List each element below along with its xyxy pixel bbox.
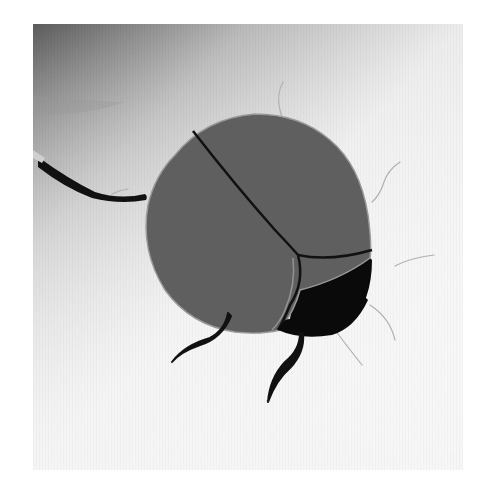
illustration-frame: Beetle illustration bbox=[33, 24, 463, 470]
beetle-illustration bbox=[33, 24, 463, 470]
